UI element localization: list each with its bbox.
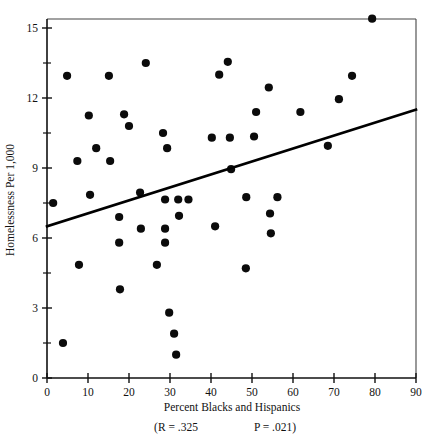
scatter-point (224, 58, 232, 66)
scatter-point (105, 72, 113, 80)
scatter-point (242, 193, 250, 201)
x-axis-tick-label: 50 (246, 386, 258, 398)
x-axis-tick-label: 90 (410, 386, 422, 398)
scatter-point (49, 199, 57, 207)
scatter-point (73, 157, 81, 165)
x-axis-tick-label: 10 (82, 386, 94, 398)
scatter-point (175, 212, 183, 220)
scatter-point (120, 110, 128, 118)
scatter-point (142, 59, 150, 67)
x-axis: 0102030405060708090 (44, 373, 422, 398)
x-axis-tick-label: 20 (123, 386, 135, 398)
scatter-point (75, 261, 83, 269)
y-axis-tick-label: 3 (32, 302, 38, 314)
scatter-point (335, 95, 343, 103)
correlation-annotation: (R = .325 (154, 421, 198, 434)
scatter-point (59, 339, 67, 347)
scatter-point (250, 132, 258, 140)
scatter-point (161, 239, 169, 247)
data-points-layer (49, 15, 376, 359)
scatter-point (273, 193, 281, 201)
x-axis-tick-label: 70 (328, 386, 340, 398)
y-axis-tick-label: 9 (32, 162, 38, 174)
scatter-point (106, 157, 114, 165)
scatter-point (174, 195, 182, 203)
scatter-point (163, 144, 171, 152)
regression-line (47, 110, 416, 227)
scatter-plot-figure: 03691215 0102030405060708090 Homelessnes… (0, 0, 425, 439)
scatter-point (172, 351, 180, 359)
scatter-point (208, 134, 216, 142)
scatter-point (170, 330, 178, 338)
y-axis-tick-label: 15 (27, 22, 39, 34)
y-axis-tick-label: 12 (27, 92, 39, 104)
x-axis-tick-label: 0 (44, 386, 50, 398)
y-axis-tick-label: 0 (32, 372, 38, 384)
chart-canvas: 03691215 0102030405060708090 Homelessnes… (0, 0, 425, 439)
x-axis-tick-label: 80 (369, 386, 381, 398)
scatter-point (215, 71, 223, 79)
scatter-point (159, 129, 167, 137)
y-axis-tick-label: 6 (32, 232, 38, 244)
pvalue-annotation: P = .021) (254, 421, 296, 434)
scatter-point (265, 83, 273, 91)
scatter-point (296, 108, 304, 116)
scatter-point (85, 111, 93, 119)
x-axis-tick-label: 30 (164, 386, 176, 398)
scatter-point (153, 261, 161, 269)
regression-trendline-layer (47, 110, 416, 227)
scatter-point (211, 222, 219, 230)
scatter-point (165, 309, 173, 317)
scatter-point (92, 144, 100, 152)
scatter-point (115, 239, 123, 247)
scatter-point (125, 122, 133, 130)
scatter-point (63, 72, 71, 80)
scatter-point (368, 15, 376, 23)
scatter-point (161, 225, 169, 233)
scatter-point (115, 213, 123, 221)
y-axis: 03691215 (27, 19, 53, 384)
x-axis-tick-label: 40 (205, 386, 217, 398)
y-axis-title: Homelessness Per 1,000 (4, 144, 17, 256)
x-axis-title: Percent Blacks and Hispanics (164, 401, 301, 414)
scatter-point (266, 209, 274, 217)
scatter-point (161, 195, 169, 203)
scatter-point (226, 134, 234, 142)
scatter-point (86, 191, 94, 199)
scatter-point (137, 225, 145, 233)
scatter-point (116, 285, 124, 293)
scatter-point (348, 72, 356, 80)
scatter-point (242, 264, 250, 272)
scatter-point (324, 142, 332, 150)
scatter-point (252, 108, 260, 116)
x-axis-tick-label: 60 (287, 386, 299, 398)
plot-frame (47, 19, 416, 378)
scatter-point (184, 195, 192, 203)
scatter-point (267, 229, 275, 237)
